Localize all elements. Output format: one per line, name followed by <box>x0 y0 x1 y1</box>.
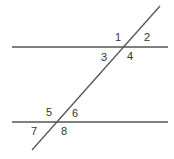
angle-label-7: 7 <box>31 125 37 137</box>
angle-label-2: 2 <box>144 31 150 43</box>
angle-label-1: 1 <box>115 31 121 43</box>
transversal-line <box>32 6 160 150</box>
angle-label-3: 3 <box>101 51 107 63</box>
angle-label-5: 5 <box>46 106 52 118</box>
diagram-svg: 1 2 3 4 5 6 7 8 <box>0 0 174 159</box>
diagram-canvas: 1 2 3 4 5 6 7 8 <box>0 0 174 159</box>
angle-label-4: 4 <box>127 50 133 62</box>
angle-label-8: 8 <box>61 125 67 137</box>
angle-label-6: 6 <box>72 107 78 119</box>
